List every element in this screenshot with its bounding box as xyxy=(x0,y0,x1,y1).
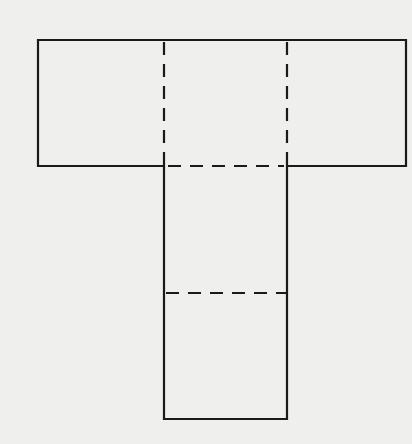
net-outline xyxy=(38,40,406,419)
t-shaped-net-diagram xyxy=(0,0,412,444)
